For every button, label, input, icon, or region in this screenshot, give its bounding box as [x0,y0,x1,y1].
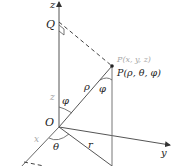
point-p [110,64,114,68]
p-cartesian-label: P(x, y, z) [117,56,151,64]
phi-arc-origin [59,107,72,113]
y-axis [59,127,170,145]
p-spherical-label: P(ρ, θ, φ) [117,68,161,78]
q-to-p-dashed-line [59,22,112,66]
z-axis-label: z [50,0,55,10]
x-axis-label: x [34,135,39,144]
bottom-dashed-line [24,162,44,166]
phi-p-label: φ [99,84,106,94]
z-height-label: z [50,93,55,102]
origin-label: O [45,117,54,128]
right-angle-marker [59,25,64,35]
phi-origin-label: φ [62,96,69,106]
y-axis-label: y [161,148,167,158]
q-point-label: Q [46,19,55,30]
r-label: r [88,140,93,150]
spherical-coordinates-diagram: z Q P(x, y, z) P(ρ, θ, φ) ρ z φ φ O x θ … [0,0,176,166]
rho-label: ρ [84,82,90,92]
r-line [59,127,112,166]
theta-label: θ [53,142,59,152]
